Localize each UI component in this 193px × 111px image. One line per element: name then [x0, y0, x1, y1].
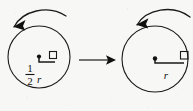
small-circle-center-dot	[37, 54, 41, 58]
small-circle-right-angle-marker	[50, 52, 57, 59]
small-circle-radius-variable: r	[37, 73, 42, 85]
figure-canvas: 1 2 r r	[0, 0, 193, 111]
fraction-numerator: 1	[27, 62, 33, 74]
right-rotation-arrow	[136, 10, 190, 29]
small-circle-radius-label: 1 2 r	[26, 62, 43, 87]
transformation-arrow-group	[79, 55, 116, 65]
left-rotation-arrow	[13, 10, 66, 31]
right-circle-group: r	[122, 10, 190, 92]
large-circle-radius-label: r	[164, 69, 169, 81]
large-circle-center-dot	[153, 56, 157, 60]
large-circle-radius-line	[155, 59, 184, 63]
left-circle-group: 1 2 r	[8, 10, 70, 88]
small-circle-radius-line	[39, 57, 55, 62]
geometry-figure: 1 2 r r	[0, 0, 193, 111]
fraction-denominator: 2	[27, 75, 33, 87]
